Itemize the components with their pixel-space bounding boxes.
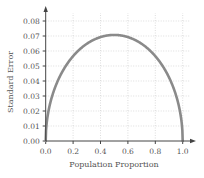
x-tick-label: 0.6 bbox=[122, 147, 134, 156]
y-tick-label: 0.08 bbox=[23, 17, 40, 26]
x-tick-label: 0.2 bbox=[67, 147, 79, 156]
y-tick-label: 0.03 bbox=[23, 92, 40, 101]
x-tick-label: 0.8 bbox=[149, 147, 161, 156]
x-tick-label: 1.0 bbox=[177, 147, 189, 156]
x-tick-label: 0.0 bbox=[40, 147, 52, 156]
y-tick-label: 0.06 bbox=[23, 47, 40, 56]
y-tick-label: 0.02 bbox=[23, 107, 40, 116]
y-axis-label: Standard Error bbox=[6, 51, 15, 113]
x-tick-label: 0.4 bbox=[95, 147, 107, 156]
x-tick-labels: 0.00.20.40.60.81.0 bbox=[40, 147, 189, 156]
y-tick-label: 0.00 bbox=[23, 137, 40, 146]
y-tick-label: 0.07 bbox=[23, 32, 40, 41]
y-tick-labels: 0.000.010.020.030.040.050.060.070.08 bbox=[23, 17, 40, 146]
y-axis-arrow-icon bbox=[44, 6, 48, 12]
y-tick-label: 0.05 bbox=[23, 62, 40, 71]
y-tick-label: 0.01 bbox=[23, 122, 40, 131]
axes bbox=[44, 6, 197, 143]
x-axis-arrow-icon bbox=[190, 139, 196, 143]
y-tick-label: 0.04 bbox=[23, 77, 40, 86]
standard-error-chart: 0.000.010.020.030.040.050.060.070.08 0.0… bbox=[0, 0, 204, 178]
x-axis-label: Population Proportion bbox=[69, 160, 158, 169]
